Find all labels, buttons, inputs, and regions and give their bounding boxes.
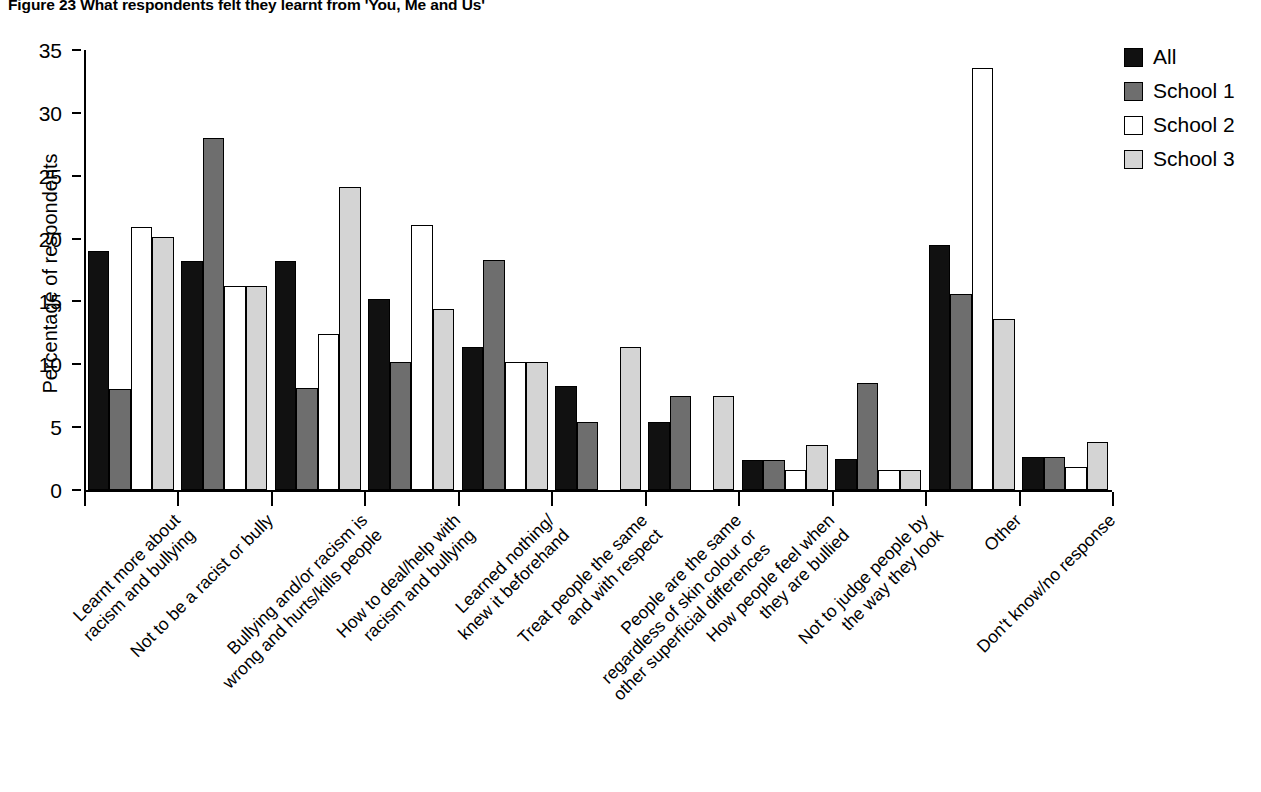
bar bbox=[835, 459, 857, 490]
bar bbox=[577, 422, 599, 490]
y-tick-mark bbox=[72, 426, 81, 428]
bar bbox=[950, 294, 972, 490]
bar bbox=[131, 227, 153, 490]
y-tick-mark bbox=[72, 49, 81, 51]
bar bbox=[368, 299, 390, 490]
chart-legend: AllSchool 1School 2School 3 bbox=[1124, 40, 1235, 176]
y-tick-mark bbox=[72, 112, 81, 114]
legend-swatch-icon bbox=[1124, 150, 1143, 169]
legend-row: School 2 bbox=[1124, 108, 1235, 142]
y-tick-label: 35 bbox=[22, 40, 62, 61]
bar bbox=[670, 396, 692, 490]
bar bbox=[246, 286, 268, 490]
legend-label: School 2 bbox=[1153, 113, 1235, 137]
y-tick-label: 15 bbox=[22, 291, 62, 312]
bar bbox=[785, 470, 807, 490]
bar bbox=[900, 470, 922, 490]
y-tick-label: 10 bbox=[22, 354, 62, 375]
x-tick-mark bbox=[364, 492, 366, 506]
bar bbox=[526, 362, 548, 490]
x-tick-mark bbox=[738, 492, 740, 506]
x-tick-mark bbox=[645, 492, 647, 506]
legend-label: All bbox=[1153, 45, 1176, 69]
bar bbox=[318, 334, 340, 490]
bar bbox=[411, 225, 433, 490]
legend-label: School 3 bbox=[1153, 147, 1235, 171]
legend-swatch-icon bbox=[1124, 116, 1143, 135]
x-tick-mark bbox=[271, 492, 273, 506]
bar bbox=[462, 347, 484, 490]
bar bbox=[972, 68, 994, 490]
legend-swatch-icon bbox=[1124, 82, 1143, 101]
y-tick-label: 25 bbox=[22, 165, 62, 186]
bar bbox=[433, 309, 455, 490]
bar bbox=[713, 396, 735, 490]
bar bbox=[648, 422, 670, 490]
bar bbox=[483, 260, 505, 490]
x-tick-mark bbox=[84, 492, 86, 506]
y-axis-line bbox=[84, 50, 86, 492]
bar bbox=[742, 460, 764, 490]
bar bbox=[224, 286, 246, 490]
bar bbox=[555, 386, 577, 490]
x-tick-mark bbox=[458, 492, 460, 506]
bar bbox=[109, 389, 131, 490]
bar bbox=[203, 138, 225, 490]
bar bbox=[620, 347, 642, 490]
y-tick-mark bbox=[72, 363, 81, 365]
y-tick-mark bbox=[72, 175, 81, 177]
bar bbox=[390, 362, 412, 490]
legend-row: School 3 bbox=[1124, 142, 1235, 176]
bar bbox=[181, 261, 203, 490]
bar bbox=[1044, 457, 1066, 490]
x-axis-line bbox=[84, 490, 1112, 492]
y-tick-mark bbox=[72, 238, 81, 240]
y-tick-label: 0 bbox=[22, 480, 62, 501]
bar bbox=[1022, 457, 1044, 490]
y-tick-label: 5 bbox=[22, 417, 62, 438]
y-axis-tick-marks bbox=[72, 0, 84, 792]
x-tick-mark bbox=[925, 492, 927, 506]
x-tick-mark bbox=[551, 492, 553, 506]
x-tick-mark bbox=[1112, 492, 1114, 506]
bar bbox=[275, 261, 297, 490]
y-tick-mark bbox=[72, 489, 81, 491]
bar bbox=[763, 460, 785, 490]
legend-row: School 1 bbox=[1124, 74, 1235, 108]
bar bbox=[152, 237, 174, 490]
y-tick-label: 20 bbox=[22, 228, 62, 249]
legend-row: All bbox=[1124, 40, 1235, 74]
x-tick-mark bbox=[832, 492, 834, 506]
bar bbox=[993, 319, 1015, 490]
bar bbox=[1087, 442, 1109, 490]
bar bbox=[806, 445, 828, 490]
bar bbox=[929, 245, 951, 490]
bar bbox=[88, 251, 110, 490]
legend-swatch-icon bbox=[1124, 48, 1143, 67]
bar bbox=[857, 383, 879, 490]
y-tick-label: 30 bbox=[22, 102, 62, 123]
x-tick-mark bbox=[177, 492, 179, 506]
y-tick-mark bbox=[72, 300, 81, 302]
bar bbox=[505, 362, 527, 490]
legend-label: School 1 bbox=[1153, 79, 1235, 103]
chart-plot-area: Percentage of respondents 05101520253035… bbox=[0, 0, 1261, 792]
bar bbox=[1065, 467, 1087, 490]
bar bbox=[296, 388, 318, 490]
x-tick-mark bbox=[1019, 492, 1021, 506]
bar bbox=[878, 470, 900, 490]
bar bbox=[339, 187, 361, 490]
